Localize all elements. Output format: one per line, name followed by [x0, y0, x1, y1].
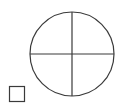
diagram-canvas [0, 0, 123, 109]
small-square-shape [10, 87, 25, 102]
